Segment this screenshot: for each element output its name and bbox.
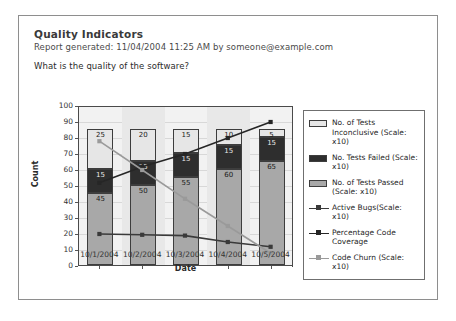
report-generated-meta: Report generated: 11/04/2004 11:25 AM by… <box>34 42 424 52</box>
y-tick-mark <box>75 234 78 235</box>
y-axis-ticks: 0102030405060708090100 <box>49 106 73 266</box>
legend-item[interactable]: No. of Tests Inconclusive (Scale: x10) <box>309 118 419 147</box>
y-tick-label: 90 <box>51 118 73 126</box>
quality-chart: Count 0102030405060708090100 45152550152… <box>31 84 429 289</box>
legend-marker <box>316 205 321 210</box>
y-tick-mark <box>75 106 78 107</box>
line-marker[interactable] <box>183 234 187 238</box>
line-series-overlay <box>78 106 293 267</box>
y-tick-label: 70 <box>51 150 73 158</box>
legend-key-icon <box>309 203 329 214</box>
legend-label: Active Bugs(Scale: x10) <box>332 203 419 222</box>
legend-label: No. Tests Failed (Scale: x10) <box>332 153 419 172</box>
report-screenshot: Quality Indicators Report generated: 11/… <box>0 0 456 321</box>
line-marker[interactable] <box>269 120 273 124</box>
x-axis-label: Date <box>78 264 293 273</box>
legend-label: Code Churn (Scale: x10) <box>332 253 419 272</box>
legend-item[interactable]: No. of Tests Passed (Scale: x10) <box>309 178 419 197</box>
y-tick-mark <box>75 218 78 219</box>
legend-swatch <box>309 120 327 127</box>
line-marker[interactable] <box>226 240 230 244</box>
legend-marker <box>316 255 321 260</box>
report-question: What is the quality of the software? <box>34 61 424 71</box>
legend-item[interactable]: Active Bugs(Scale: x10) <box>309 203 419 222</box>
line-marker[interactable] <box>226 136 230 140</box>
y-tick-mark <box>75 170 78 171</box>
legend-item[interactable]: Percentage Code Coverage <box>309 228 419 247</box>
report-title: Quality Indicators <box>34 28 424 40</box>
y-tick-label: 60 <box>51 166 73 174</box>
line-marker[interactable] <box>183 197 187 201</box>
legend-key-icon <box>309 178 329 189</box>
legend-label: Percentage Code Coverage <box>332 228 419 247</box>
legend-swatch <box>309 155 327 162</box>
legend-key-icon <box>309 228 329 239</box>
y-tick-mark <box>75 250 78 251</box>
y-tick-mark <box>75 154 78 155</box>
y-tick-label: 100 <box>51 102 73 110</box>
line-marker[interactable] <box>226 224 230 228</box>
y-tick-mark <box>75 122 78 123</box>
chart-legend: No. of Tests Inconclusive (Scale: x10)No… <box>303 110 425 280</box>
line-marker[interactable] <box>183 152 187 156</box>
x-tick-label: 10/5/2004 <box>242 250 300 259</box>
line-marker[interactable] <box>140 168 144 172</box>
y-tick-mark <box>75 202 78 203</box>
y-tick-mark <box>75 138 78 139</box>
y-tick-label: 30 <box>51 214 73 222</box>
line-marker[interactable] <box>97 181 101 185</box>
legend-label: No. of Tests Inconclusive (Scale: x10) <box>332 118 419 147</box>
y-tick-label: 50 <box>51 182 73 190</box>
y-tick-mark <box>75 186 78 187</box>
y-tick-label: 20 <box>51 230 73 238</box>
legend-marker <box>316 230 321 235</box>
report-card: Quality Indicators Report generated: 11/… <box>18 15 438 300</box>
report-header: Quality Indicators Report generated: 11/… <box>34 28 424 71</box>
legend-item[interactable]: No. Tests Failed (Scale: x10) <box>309 153 419 172</box>
legend-label: No. of Tests Passed (Scale: x10) <box>332 178 419 197</box>
legend-key-icon <box>309 253 329 264</box>
legend-key-icon <box>309 153 329 164</box>
y-tick-label: 40 <box>51 198 73 206</box>
y-tick-mark <box>75 266 78 267</box>
line-marker[interactable] <box>97 232 101 236</box>
line-marker[interactable] <box>97 139 101 143</box>
line-marker[interactable] <box>140 233 144 237</box>
y-tick-label: 80 <box>51 134 73 142</box>
legend-item[interactable]: Code Churn (Scale: x10) <box>309 253 419 272</box>
y-axis-label: Count <box>31 144 40 204</box>
line-marker[interactable] <box>269 245 273 249</box>
legend-key-icon <box>309 118 329 129</box>
y-tick-label: 0 <box>51 262 73 270</box>
legend-swatch <box>309 180 327 187</box>
